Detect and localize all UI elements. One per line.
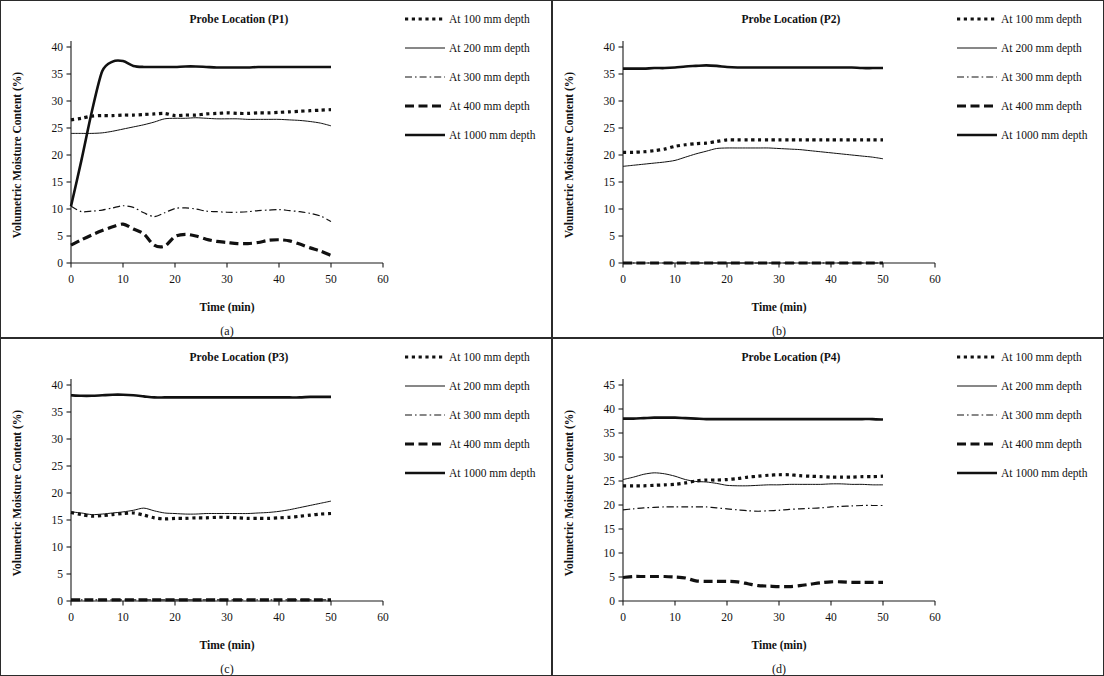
y-tick-label: 5 [609, 230, 615, 242]
legend-label: At 1000 mm depth [1001, 467, 1088, 480]
y-tick-label: 10 [52, 541, 64, 553]
plot-c: Probe Location (P3)051015202530354001020… [1, 339, 552, 676]
y-tick-label: 15 [52, 514, 64, 526]
x-tick-label: 40 [825, 611, 837, 623]
legend-label: At 300 mm depth [1001, 409, 1082, 422]
series-line [623, 140, 883, 153]
x-tick-label: 40 [273, 611, 285, 623]
y-tick-label: 0 [609, 257, 615, 269]
legend-label: At 300 mm depth [449, 71, 530, 84]
x-tick-label: 20 [721, 611, 733, 623]
plot-b: Probe Location (P2)051015202530354001020… [553, 1, 1104, 338]
chart-title: Probe Location (P4) [742, 351, 841, 364]
y-axis-title: Volumetric Moisture Content (%) [563, 72, 576, 239]
y-tick-label: 40 [52, 379, 64, 391]
y-tick-label: 40 [604, 41, 616, 53]
series-line [623, 473, 883, 486]
legend-label: At 400 mm depth [1001, 438, 1082, 451]
series-line [71, 501, 331, 515]
y-tick-label: 30 [604, 451, 616, 463]
x-tick-label: 10 [669, 611, 681, 623]
plot-a: Probe Location (P1)051015202530354001020… [1, 1, 552, 338]
y-tick-label: 45 [604, 379, 616, 391]
x-tick-label: 30 [773, 611, 785, 623]
panel-caption: (a) [220, 324, 233, 338]
chart-panel-d: Probe Location (P4)051015202530354045010… [552, 338, 1104, 676]
chart-title: Probe Location (P1) [190, 13, 289, 26]
y-tick-label: 20 [604, 499, 616, 511]
legend-label: At 200 mm depth [449, 380, 530, 393]
legend-label: At 300 mm depth [449, 409, 530, 422]
chart-panel-b: Probe Location (P2)051015202530354001020… [552, 0, 1104, 338]
x-tick-label: 50 [325, 611, 337, 623]
x-tick-label: 0 [620, 273, 626, 285]
y-tick-label: 15 [604, 523, 616, 535]
x-tick-label: 0 [68, 611, 74, 623]
x-tick-label: 30 [221, 611, 233, 623]
y-tick-label: 10 [52, 203, 64, 215]
legend-label: At 1000 mm depth [449, 467, 536, 480]
x-tick-label: 60 [377, 611, 389, 623]
legend-label: At 200 mm depth [1001, 42, 1082, 55]
x-axis-title: Time (min) [199, 639, 254, 652]
y-tick-label: 20 [52, 487, 64, 499]
legend-label: At 200 mm depth [449, 42, 530, 55]
legend-label: At 400 mm depth [1001, 100, 1082, 113]
x-tick-label: 50 [877, 611, 889, 623]
x-tick-label: 0 [620, 611, 626, 623]
panel-caption: (d) [772, 662, 786, 676]
series-line [71, 395, 331, 398]
x-tick-label: 20 [169, 611, 181, 623]
legend-label: At 400 mm depth [449, 438, 530, 451]
legend-label: At 100 mm depth [449, 351, 530, 364]
legend-label: At 100 mm depth [1001, 351, 1082, 364]
legend-label: At 400 mm depth [449, 100, 530, 113]
series-line [623, 576, 883, 586]
x-axis-title: Time (min) [751, 301, 806, 314]
series-line [71, 61, 331, 207]
legend-label: At 1000 mm depth [1001, 129, 1088, 142]
y-tick-label: 10 [604, 547, 616, 559]
y-tick-label: 25 [52, 460, 64, 472]
legend-label: At 200 mm depth [1001, 380, 1082, 393]
chart-title: Probe Location (P3) [190, 351, 289, 364]
y-tick-label: 35 [52, 406, 64, 418]
y-tick-label: 35 [604, 68, 616, 80]
x-tick-label: 20 [169, 273, 181, 285]
y-tick-label: 30 [52, 433, 64, 445]
legend-label: At 1000 mm depth [449, 129, 536, 142]
x-tick-label: 50 [877, 273, 889, 285]
panel-caption: (c) [220, 662, 233, 676]
chart-panel-c: Probe Location (P3)051015202530354001020… [0, 338, 552, 676]
y-tick-label: 20 [604, 149, 616, 161]
y-tick-label: 30 [604, 95, 616, 107]
y-tick-label: 15 [604, 176, 616, 188]
y-tick-label: 25 [604, 475, 616, 487]
y-tick-label: 10 [604, 203, 616, 215]
y-tick-label: 0 [609, 595, 615, 607]
x-tick-label: 40 [273, 273, 285, 285]
y-tick-label: 30 [52, 95, 64, 107]
y-axis-title: Volumetric Moisture Content (%) [11, 72, 24, 239]
y-tick-label: 25 [52, 122, 64, 134]
x-tick-label: 60 [377, 273, 389, 285]
y-tick-label: 40 [52, 41, 64, 53]
x-axis-title: Time (min) [199, 301, 254, 314]
figure-grid: Probe Location (P1)051015202530354001020… [0, 0, 1104, 676]
series-line [623, 505, 883, 511]
x-tick-label: 10 [669, 273, 681, 285]
y-tick-label: 35 [604, 427, 616, 439]
series-line [623, 65, 883, 68]
legend-label: At 300 mm depth [1001, 71, 1082, 84]
x-tick-label: 20 [721, 273, 733, 285]
legend-label: At 100 mm depth [1001, 13, 1082, 26]
x-tick-label: 10 [117, 611, 129, 623]
y-tick-label: 0 [57, 595, 63, 607]
y-tick-label: 35 [52, 68, 64, 80]
plot-d: Probe Location (P4)051015202530354045010… [553, 339, 1104, 676]
x-tick-label: 0 [68, 273, 74, 285]
y-tick-label: 5 [609, 571, 615, 583]
y-tick-label: 25 [604, 122, 616, 134]
series-line [623, 418, 883, 420]
x-tick-label: 10 [117, 273, 129, 285]
